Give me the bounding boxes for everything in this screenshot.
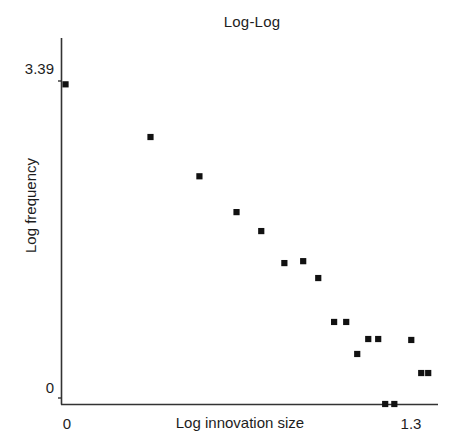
- data-point: [196, 173, 202, 179]
- data-point: [331, 319, 337, 325]
- data-point: [315, 275, 321, 281]
- y-tick-label-max: 3.39: [2, 60, 54, 77]
- data-point: [62, 81, 68, 87]
- data-point-group: [62, 81, 431, 407]
- x-axis-label: Log innovation size: [150, 414, 330, 431]
- data-point: [147, 134, 153, 140]
- data-point: [365, 336, 371, 342]
- scatter-plot-canvas: [0, 0, 458, 444]
- data-point: [281, 260, 287, 266]
- axes-group: [58, 38, 438, 405]
- data-point: [258, 228, 264, 234]
- data-point: [354, 351, 360, 357]
- data-point: [375, 336, 381, 342]
- data-point: [382, 401, 388, 407]
- data-point: [418, 370, 424, 376]
- data-point: [425, 370, 431, 376]
- x-tick-label-max: 1.3: [396, 415, 426, 432]
- data-point: [233, 209, 239, 215]
- y-tick-label-min: 0: [2, 379, 54, 396]
- y-axis-label: Log frequency: [22, 131, 39, 281]
- data-point: [391, 401, 397, 407]
- data-point: [343, 319, 349, 325]
- x-tick-label-min: 0: [52, 415, 82, 432]
- chart-figure: Log-Log Log frequency Log innovation siz…: [0, 0, 458, 444]
- data-point: [300, 258, 306, 264]
- data-point: [408, 337, 414, 343]
